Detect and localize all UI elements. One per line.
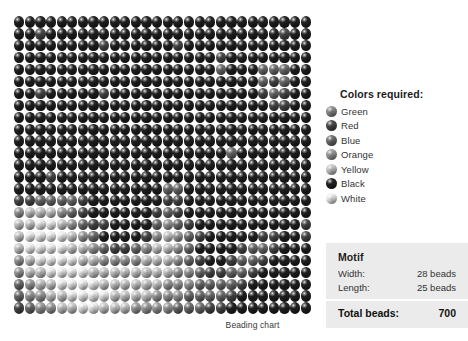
bead-cell[interactable] — [205, 111, 216, 123]
bead-cell[interactable] — [205, 254, 216, 266]
bead-cell[interactable] — [173, 254, 184, 266]
bead-cell[interactable] — [162, 52, 173, 64]
bead-cell[interactable] — [56, 76, 67, 88]
bead-cell[interactable] — [247, 52, 258, 64]
bead-cell[interactable] — [269, 16, 280, 28]
bead-cell[interactable] — [173, 99, 184, 111]
bead-cell[interactable] — [162, 147, 173, 159]
bead-cell[interactable] — [109, 40, 120, 52]
bead-cell[interactable] — [237, 290, 248, 302]
bead-cell[interactable] — [141, 231, 152, 243]
bead-cell[interactable] — [14, 52, 25, 64]
bead-cell[interactable] — [78, 135, 89, 147]
bead-cell[interactable] — [269, 290, 280, 302]
bead-cell[interactable] — [279, 111, 290, 123]
bead-cell[interactable] — [279, 254, 290, 266]
bead-cell[interactable] — [162, 135, 173, 147]
bead-cell[interactable] — [14, 242, 25, 254]
bead-cell[interactable] — [173, 147, 184, 159]
bead-cell[interactable] — [99, 195, 110, 207]
bead-cell[interactable] — [194, 135, 205, 147]
bead-cell[interactable] — [300, 183, 311, 195]
bead-cell[interactable] — [56, 64, 67, 76]
bead-cell[interactable] — [279, 99, 290, 111]
legend-item-yellow[interactable]: Yellow — [326, 162, 468, 177]
bead-cell[interactable] — [152, 231, 163, 243]
bead-cell[interactable] — [109, 135, 120, 147]
bead-cell[interactable] — [205, 242, 216, 254]
bead-cell[interactable] — [120, 28, 131, 40]
bead-cell[interactable] — [78, 123, 89, 135]
bead-cell[interactable] — [300, 302, 311, 314]
bead-cell[interactable] — [78, 171, 89, 183]
bead-cell[interactable] — [46, 123, 57, 135]
bead-cell[interactable] — [78, 231, 89, 243]
bead-cell[interactable] — [258, 278, 269, 290]
bead-cell[interactable] — [78, 99, 89, 111]
bead-cell[interactable] — [56, 147, 67, 159]
bead-cell[interactable] — [25, 159, 36, 171]
bead-cell[interactable] — [279, 183, 290, 195]
bead-cell[interactable] — [269, 278, 280, 290]
bead-cell[interactable] — [109, 64, 120, 76]
bead-cell[interactable] — [120, 64, 131, 76]
bead-cell[interactable] — [67, 266, 78, 278]
bead-cell[interactable] — [109, 278, 120, 290]
bead-cell[interactable] — [269, 207, 280, 219]
bead-cell[interactable] — [194, 242, 205, 254]
legend-item-black[interactable]: Black — [326, 177, 468, 192]
bead-cell[interactable] — [162, 76, 173, 88]
bead-cell[interactable] — [78, 159, 89, 171]
bead-cell[interactable] — [300, 231, 311, 243]
legend-item-white[interactable]: White — [326, 191, 468, 206]
bead-cell[interactable] — [162, 302, 173, 314]
bead-cell[interactable] — [258, 171, 269, 183]
bead-cell[interactable] — [56, 266, 67, 278]
bead-cell[interactable] — [237, 278, 248, 290]
bead-cell[interactable] — [173, 278, 184, 290]
bead-cell[interactable] — [173, 88, 184, 100]
bead-cell[interactable] — [78, 40, 89, 52]
bead-cell[interactable] — [141, 254, 152, 266]
bead-cell[interactable] — [184, 28, 195, 40]
bead-cell[interactable] — [162, 40, 173, 52]
bead-cell[interactable] — [194, 111, 205, 123]
bead-cell[interactable] — [109, 88, 120, 100]
bead-cell[interactable] — [162, 207, 173, 219]
bead-cell[interactable] — [78, 290, 89, 302]
bead-cell[interactable] — [152, 302, 163, 314]
bead-cell[interactable] — [14, 231, 25, 243]
bead-cell[interactable] — [14, 64, 25, 76]
bead-cell[interactable] — [269, 231, 280, 243]
bead-cell[interactable] — [162, 111, 173, 123]
bead-cell[interactable] — [290, 123, 301, 135]
bead-cell[interactable] — [120, 207, 131, 219]
bead-cell[interactable] — [14, 159, 25, 171]
bead-cell[interactable] — [226, 254, 237, 266]
bead-cell[interactable] — [194, 290, 205, 302]
bead-cell[interactable] — [237, 254, 248, 266]
bead-cell[interactable] — [247, 302, 258, 314]
bead-cell[interactable] — [46, 147, 57, 159]
bead-cell[interactable] — [99, 64, 110, 76]
bead-cell[interactable] — [46, 28, 57, 40]
bead-cell[interactable] — [237, 207, 248, 219]
bead-cell[interactable] — [25, 16, 36, 28]
bead-cell[interactable] — [25, 111, 36, 123]
bead-cell[interactable] — [173, 159, 184, 171]
bead-cell[interactable] — [78, 195, 89, 207]
bead-cell[interactable] — [226, 207, 237, 219]
bead-cell[interactable] — [35, 219, 46, 231]
bead-cell[interactable] — [205, 290, 216, 302]
bead-cell[interactable] — [258, 135, 269, 147]
bead-cell[interactable] — [56, 28, 67, 40]
bead-cell[interactable] — [194, 159, 205, 171]
bead-cell[interactable] — [237, 183, 248, 195]
bead-cell[interactable] — [67, 207, 78, 219]
bead-cell[interactable] — [152, 52, 163, 64]
bead-cell[interactable] — [300, 40, 311, 52]
bead-cell[interactable] — [237, 16, 248, 28]
bead-cell[interactable] — [184, 16, 195, 28]
bead-cell[interactable] — [258, 266, 269, 278]
bead-cell[interactable] — [194, 302, 205, 314]
